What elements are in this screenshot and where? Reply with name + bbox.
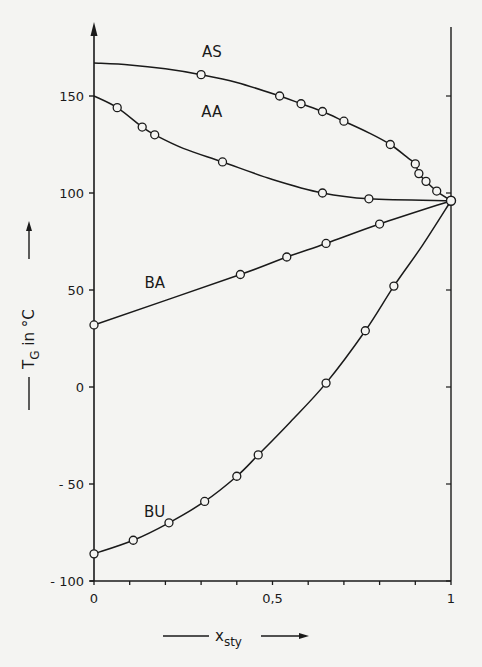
x-tick-label: 0,5	[262, 591, 283, 606]
y-title-group: TG in °C	[20, 221, 42, 410]
y-title-arrow-icon	[26, 221, 32, 231]
data-point-marker	[386, 141, 394, 149]
x-title-arrow-icon	[299, 633, 309, 639]
data-point-marker	[236, 270, 244, 278]
y-axis-arrow-icon	[91, 22, 98, 36]
series-curve	[94, 201, 451, 325]
x-tick-label: 0	[90, 591, 98, 606]
data-point-marker	[376, 220, 384, 228]
data-point-marker	[283, 253, 291, 261]
data-point-marker	[318, 189, 326, 197]
labels-layer: ASAABABU	[144, 43, 223, 521]
data-point-marker	[322, 379, 330, 387]
y-tick-label: - 100	[50, 574, 84, 589]
data-point-marker	[197, 71, 205, 79]
y-tick-label: 150	[59, 89, 84, 104]
common-endpoint-marker	[447, 196, 456, 205]
series-ba	[90, 201, 451, 329]
data-point-marker	[90, 321, 98, 329]
data-point-marker	[411, 160, 419, 168]
data-point-marker	[90, 550, 98, 558]
data-point-marker	[129, 536, 137, 544]
axes: - 100- 5005010015000,51	[50, 22, 455, 606]
data-point-marker	[233, 472, 241, 480]
data-point-marker	[318, 108, 326, 116]
data-point-marker	[219, 158, 227, 166]
series-label-as: AS	[202, 43, 222, 61]
data-point-marker	[422, 177, 430, 185]
data-point-marker	[138, 123, 146, 131]
series-curve	[94, 96, 451, 201]
series-curve	[94, 201, 451, 554]
series-label-bu: BU	[144, 503, 165, 521]
data-point-marker	[390, 282, 398, 290]
data-point-marker	[365, 195, 373, 203]
data-point-marker	[151, 131, 159, 139]
data-point-marker	[113, 104, 121, 112]
data-point-marker	[361, 327, 369, 335]
series-layer	[90, 63, 456, 558]
y-axis-title: TG in °C	[20, 309, 42, 370]
x-axis-title: xsty	[215, 627, 242, 649]
data-point-marker	[201, 497, 209, 505]
data-point-marker	[276, 92, 284, 100]
y-tick-label: 0	[76, 380, 84, 395]
data-point-marker	[297, 100, 305, 108]
y-tick-label: - 50	[59, 477, 84, 492]
data-point-marker	[433, 187, 441, 195]
series-label-ba: BA	[144, 274, 165, 292]
series-label-aa: AA	[201, 103, 223, 121]
y-tick-label: 100	[59, 186, 84, 201]
y-tick-label: 50	[67, 283, 84, 298]
chart-figure: - 100- 5005010015000,51 ASAABABU xsty TG…	[0, 0, 482, 667]
series-as	[94, 63, 455, 205]
x-tick-label: 1	[447, 591, 455, 606]
data-point-marker	[254, 451, 262, 459]
data-point-marker	[340, 117, 348, 125]
data-point-marker	[165, 519, 173, 527]
data-point-marker	[415, 170, 423, 178]
data-point-marker	[322, 239, 330, 247]
